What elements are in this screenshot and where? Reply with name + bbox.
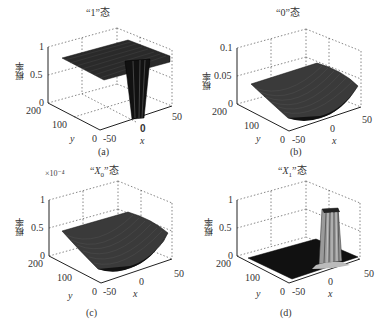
z-axis-label-c: 概率 (15, 218, 24, 236)
z-tick-b-top: 0.1 (220, 43, 233, 53)
panel-b: “0”态 概率 0.1 0.05 0 200 100 0 y -50 0 50 … (192, 0, 384, 161)
y-tick-c-100: 100 (57, 273, 72, 283)
x-tick-c-50: 50 (174, 269, 184, 279)
x-tick-b-50: 50 (362, 115, 372, 125)
z-tick-a-mid: 0.5 (30, 70, 43, 80)
y-axis-label-d: y (256, 289, 260, 299)
caption-c: (c) (86, 307, 97, 318)
z-tick-c-top: 1 (40, 195, 45, 205)
surface-plot-c (0, 161, 192, 323)
panel-a: “1”态 概率 1 0.5 0 200 100 0 y -50 0 50 x (… (0, 0, 192, 161)
x-axis-label-a: x (140, 136, 144, 146)
z-axis-label-b: 概率 (202, 72, 211, 90)
y-tick-c-0: 0 (92, 287, 97, 297)
z-tick-d-mid: 0.5 (219, 223, 232, 233)
x-axis-label-b: x (332, 136, 336, 146)
plot-title-b: “0”态 (276, 7, 300, 18)
z-tick-d-top: 1 (228, 195, 233, 205)
x-tick-b-0: 0 (330, 124, 335, 134)
y-tick-b-200: 200 (212, 107, 227, 117)
caption-d: (d) (280, 307, 292, 318)
y-axis-label-b: y (256, 134, 260, 144)
x-axis-label-d: x (328, 289, 332, 299)
y-tick-c-200: 200 (28, 259, 43, 269)
surface-plot-d (192, 161, 384, 323)
plot-title-a: “1”态 (86, 7, 110, 18)
plot-title-d: “X1”态 (278, 165, 307, 181)
x-tick-a-0: 0 (140, 124, 146, 134)
z-tick-c-mid: 0.5 (31, 223, 44, 233)
x-tick-c-neg50: -50 (103, 287, 116, 297)
caption-b: (b) (290, 146, 302, 157)
z-axis-label-a: 概率 (15, 62, 24, 80)
plot-title-c: “X0”态 (90, 165, 119, 181)
x-tick-c-0: 0 (139, 277, 144, 287)
x-axis-label-c: x (133, 289, 137, 299)
y-tick-b-100: 100 (244, 121, 259, 131)
z-tick-a-top: 1 (39, 42, 44, 52)
y-tick-d-200: 200 (216, 259, 231, 269)
y-tick-a-200: 200 (26, 106, 41, 116)
z-tick-b-bot: 0 (228, 99, 233, 109)
y-tick-b-0: 0 (280, 135, 285, 145)
scale-label-c: ×10⁻⁴ (45, 169, 65, 178)
z-axis-label-d: 概率 (204, 218, 213, 236)
caption-a: (a) (98, 146, 109, 157)
x-tick-b-neg50: -50 (292, 135, 305, 145)
y-axis-label-c: y (68, 291, 72, 301)
panel-c: ×10⁻⁴ “X0”态 概率 1 0.5 0 200 100 0 y -50 0… (0, 161, 192, 322)
y-tick-a-100: 100 (52, 120, 67, 130)
x-tick-d-0: 0 (328, 277, 333, 287)
panel-d: “X1”态 概率 1 0.5 0 200 100 0 y -50 0 50 x … (192, 161, 384, 322)
x-tick-d-50: 50 (364, 269, 374, 279)
x-tick-d-neg50: -50 (292, 287, 305, 297)
y-tick-d-100: 100 (245, 273, 260, 283)
x-tick-a-50: 50 (172, 112, 182, 122)
y-tick-a-0: 0 (92, 134, 97, 144)
x-tick-a-neg50: -50 (103, 134, 116, 144)
z-tick-b-mid: 0.05 (214, 71, 232, 81)
y-tick-d-0: 0 (280, 287, 285, 297)
y-axis-label-a: y (70, 134, 74, 144)
